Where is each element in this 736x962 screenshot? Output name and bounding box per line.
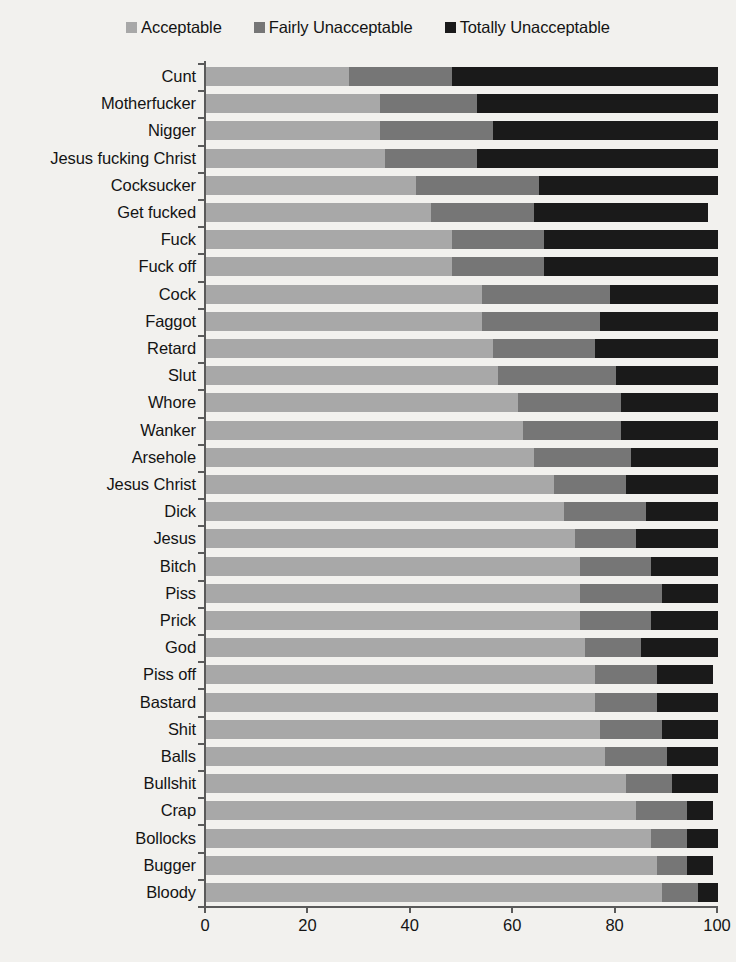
bar-segment xyxy=(206,801,636,820)
bar-segment xyxy=(482,285,610,304)
y-axis-tick xyxy=(198,852,205,854)
y-axis-tick xyxy=(198,308,205,310)
bar-segment xyxy=(662,720,718,739)
bar-segment xyxy=(206,421,523,440)
category-label: Piss off xyxy=(143,665,196,684)
bar-segment xyxy=(687,801,713,820)
category-label: Jesus xyxy=(153,529,196,548)
y-axis-tick xyxy=(198,281,205,283)
bar-segment xyxy=(206,638,585,657)
legend-label: Acceptable xyxy=(141,19,222,36)
bar-segment xyxy=(206,257,452,276)
x-axis-line xyxy=(204,906,718,908)
bar-segment xyxy=(534,203,708,222)
category-label: Prick xyxy=(160,611,196,630)
bar-segment xyxy=(600,312,718,331)
bar-segment xyxy=(698,883,718,902)
bar-segment xyxy=(651,829,687,848)
bar-segment xyxy=(206,285,482,304)
bar-segment xyxy=(482,312,600,331)
bar-segment xyxy=(580,557,652,576)
category-label: Wanker xyxy=(140,421,196,440)
category-label: Bastard xyxy=(140,693,196,712)
bar-segment xyxy=(477,94,718,113)
y-axis-tick xyxy=(198,199,205,201)
bar-segment xyxy=(657,665,713,684)
y-axis-tick xyxy=(198,63,205,65)
bar-segment xyxy=(595,339,718,358)
bar-segment xyxy=(206,693,595,712)
bar-segment xyxy=(636,801,687,820)
bar-segment xyxy=(416,176,539,195)
bar-segment xyxy=(206,339,493,358)
bar-segment xyxy=(452,257,544,276)
x-axis-tick-label: 80 xyxy=(605,915,623,935)
bar-segment xyxy=(477,149,718,168)
legend-swatch-acceptable xyxy=(126,22,137,33)
legend-swatch-fairly-unacceptable xyxy=(254,22,265,33)
bar-segment xyxy=(585,638,641,657)
category-label: Nigger xyxy=(148,121,196,140)
value-axis-labels: 020406080100 xyxy=(0,915,736,945)
bar-segment xyxy=(206,366,498,385)
category-label: Balls xyxy=(161,747,196,766)
y-axis-tick xyxy=(198,389,205,391)
legend-label: Totally Unacceptable xyxy=(460,19,610,36)
bar-segment xyxy=(349,67,451,86)
bar-segment xyxy=(206,829,651,848)
bar-segment xyxy=(206,203,431,222)
category-label: Bloody xyxy=(146,883,196,902)
y-axis-tick xyxy=(198,172,205,174)
bar-segment xyxy=(206,176,416,195)
y-axis-tick xyxy=(198,145,205,147)
bar-segment xyxy=(206,584,580,603)
x-axis-tick-label: 40 xyxy=(401,915,419,935)
bar-segment xyxy=(206,312,482,331)
category-label: Cock xyxy=(159,285,196,304)
category-label: Whore xyxy=(148,393,196,412)
bar-segment xyxy=(518,393,620,412)
bar-segment xyxy=(206,502,564,521)
bar-segment xyxy=(431,203,533,222)
bar-segment xyxy=(595,693,656,712)
y-axis-tick xyxy=(198,498,205,500)
category-label: Retard xyxy=(147,339,196,358)
bar-segment xyxy=(631,448,718,467)
category-label: Bollocks xyxy=(135,829,196,848)
bar-segment xyxy=(564,502,646,521)
category-label: Fuck xyxy=(161,230,196,249)
legend-swatch-totally-unacceptable xyxy=(445,22,456,33)
bar-segment xyxy=(206,393,518,412)
y-axis-tick xyxy=(198,362,205,364)
bar-segment xyxy=(687,856,713,875)
bar-segment xyxy=(544,257,718,276)
category-label: God xyxy=(165,638,196,657)
y-axis-tick xyxy=(198,226,205,228)
bar-segment xyxy=(206,774,626,793)
bar-segment xyxy=(206,611,580,630)
y-axis-tick xyxy=(198,552,205,554)
category-label: Jesus fucking Christ xyxy=(50,149,196,168)
y-axis-tick xyxy=(198,90,205,92)
category-label: Fuck off xyxy=(138,257,196,276)
y-axis-tick xyxy=(198,117,205,119)
y-axis-tick xyxy=(198,417,205,419)
y-axis-tick xyxy=(198,797,205,799)
bar-segment xyxy=(646,502,718,521)
y-axis-tick xyxy=(198,525,205,527)
y-axis-tick xyxy=(198,580,205,582)
bar-segment xyxy=(662,883,698,902)
bar-segment xyxy=(493,339,595,358)
bar-segment xyxy=(523,421,620,440)
bar-segment xyxy=(636,529,718,548)
bar-segment xyxy=(206,230,452,249)
bar-segment xyxy=(206,720,600,739)
bar-segment xyxy=(534,448,631,467)
bar-segment xyxy=(206,883,662,902)
category-label: Shit xyxy=(168,720,196,739)
bar-segment xyxy=(380,121,493,140)
bar-segment xyxy=(657,693,718,712)
bar-segment xyxy=(206,856,657,875)
bar-segment xyxy=(605,747,666,766)
category-label: Get fucked xyxy=(117,203,196,222)
